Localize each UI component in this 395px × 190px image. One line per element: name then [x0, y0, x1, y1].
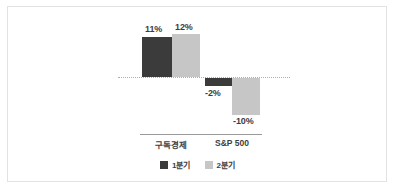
bar-group-0-series-0[interactable] [142, 37, 172, 77]
value-label-group-0-series-0: 11% [145, 24, 162, 34]
zero-reference-line [118, 77, 290, 78]
chart-plot-area: 11% 12% -2% -10% 구독경제 S&P 500 1분기 2분기 [0, 0, 395, 190]
value-label-group-0-series-1: 12% [175, 22, 193, 32]
category-label-0: 구독경제 [142, 138, 200, 150]
legend-swatch-icon-1 [205, 161, 213, 169]
chart-legend: 1분기 2분기 [0, 159, 395, 170]
legend-swatch-icon-0 [160, 161, 168, 169]
category-axis-line [140, 134, 262, 135]
bar-group-1-series-0[interactable] [205, 78, 232, 86]
value-label-group-1-series-0: -2% [205, 88, 221, 98]
value-label-group-1-series-1: -10% [233, 116, 254, 126]
legend-label-0: 1분기 [172, 159, 190, 170]
bar-group-0-series-1[interactable] [172, 34, 200, 77]
category-label-1: S&P 500 [203, 138, 261, 148]
legend-label-1: 2분기 [217, 159, 235, 170]
legend-item-0[interactable]: 1분기 [160, 159, 190, 170]
bar-group-1-series-1[interactable] [232, 78, 260, 115]
chart-screenshot: 11% 12% -2% -10% 구독경제 S&P 500 1분기 2분기 [0, 0, 395, 190]
legend-item-1[interactable]: 2분기 [205, 159, 235, 170]
